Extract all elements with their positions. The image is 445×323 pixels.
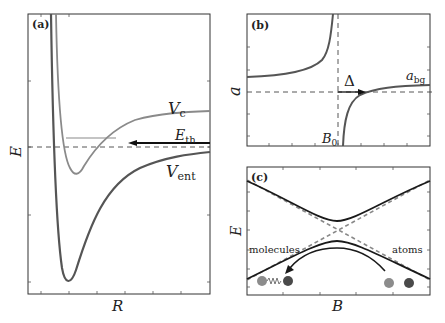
label-e-th: Eth: [174, 127, 196, 145]
molecule-bond-spring-icon: [267, 278, 281, 284]
free-atom-light: [384, 278, 394, 288]
panel-c-tag: (c): [251, 171, 268, 184]
curve-v-c: [56, 14, 210, 174]
panel-c-xlabel: B: [331, 297, 343, 315]
free-atom-dark: [404, 278, 414, 288]
adiabatic-upper-curve: [247, 181, 430, 221]
label-delta: Δ: [344, 72, 355, 90]
panel-b-frame: [247, 14, 430, 146]
panel-c: (c) molecules atoms B E: [228, 167, 430, 315]
label-b0: B0: [321, 131, 338, 148]
label-atoms: atoms: [392, 244, 423, 255]
panel-c-frame: [247, 167, 430, 295]
label-molecules: molecules: [249, 244, 300, 255]
panel-a: (a) Vc Eth Vent R E: [7, 14, 210, 315]
label-v-ent: Vent: [166, 162, 196, 183]
panel-c-ylabel: E: [228, 226, 244, 237]
sweep-arrow-head-icon: [285, 265, 294, 274]
threshold-arrow-head-icon: [128, 140, 137, 146]
label-v-c: Vc: [168, 99, 186, 120]
molecule-atom-light: [257, 276, 267, 286]
panel-a-ylabel: E: [7, 146, 25, 158]
panel-b: (b) Δ abg B0 a: [225, 14, 433, 148]
figure-canvas: (a) Vc Eth Vent R E (b) Δ abg B0: [0, 0, 445, 323]
label-a-bg: abg: [406, 68, 426, 85]
panel-a-xlabel: R: [111, 297, 123, 315]
panel-c-ticks: [247, 167, 430, 295]
curve-v-ent: [51, 14, 210, 281]
panel-a-tag: (a): [32, 18, 50, 31]
curve-a-right-branch: [343, 85, 430, 146]
molecule-atom-dark: [283, 276, 293, 286]
panel-b-ylabel: a: [225, 86, 244, 96]
panel-b-tag: (b): [251, 19, 269, 32]
panel-b-ticks: [247, 47, 430, 146]
